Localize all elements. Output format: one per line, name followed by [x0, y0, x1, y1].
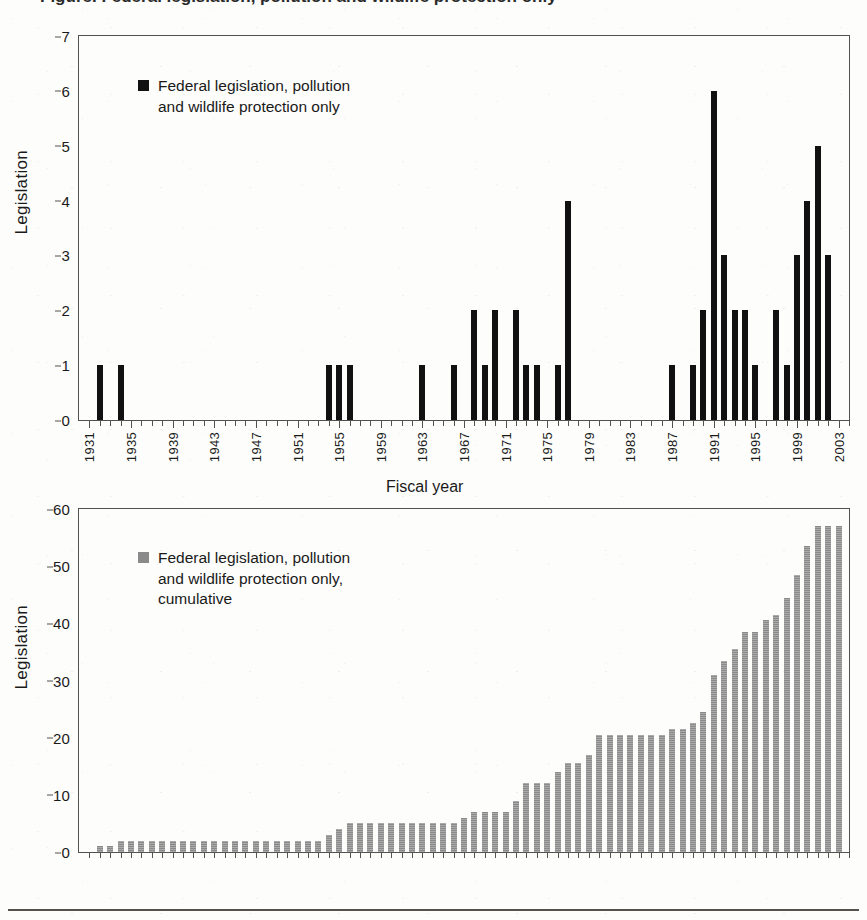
annual-x-tick-mark — [350, 420, 351, 426]
annual-x-tick-label: 1931 — [82, 432, 97, 462]
cumulative-x-tick-mark — [620, 852, 621, 858]
cumulative-x-tick-mark — [235, 852, 236, 858]
cumulative-x-tick-mark — [610, 852, 611, 858]
annual-y-tick-mark — [55, 36, 61, 37]
annual-x-tick-mark — [308, 420, 309, 426]
cumulative-x-tick-mark — [152, 852, 153, 858]
bar — [575, 763, 581, 852]
cumulative-y-tick-label: 0 — [61, 844, 79, 861]
bar — [659, 735, 665, 852]
cumulative-x-tick-mark — [350, 852, 351, 858]
cumulative-x-tick-mark — [807, 852, 808, 858]
cumulative-x-tick-mark — [662, 852, 663, 858]
bar — [419, 823, 425, 852]
annual-x-tick-label: 1943 — [207, 432, 222, 462]
bar — [669, 365, 675, 420]
annual-x-tick-mark — [193, 420, 194, 426]
bar — [451, 823, 457, 852]
annual-x-tick-label: 2003 — [832, 432, 847, 462]
annual-legend-label: Federal legislation, pollution and wildl… — [158, 76, 350, 117]
cumulative-x-tick-mark — [506, 852, 507, 858]
annual-x-tick-label: 1955 — [332, 432, 347, 462]
bar — [804, 546, 810, 852]
annual-x-tick-mark — [568, 420, 569, 426]
annual-x-tick-mark — [266, 420, 267, 426]
bar — [242, 841, 248, 852]
bar — [326, 835, 332, 852]
cumulative-x-tick-mark — [339, 852, 340, 858]
annual-x-tick-mark — [287, 420, 288, 426]
bar — [263, 841, 269, 852]
annual-x-tick-label: 1959 — [374, 432, 389, 462]
cumulative-x-tick-mark — [298, 852, 299, 858]
bar — [804, 201, 810, 420]
annual-x-tick-label: 1983 — [623, 432, 638, 462]
bar — [773, 615, 779, 852]
cumulative-x-tick-mark — [672, 852, 673, 858]
cumulative-x-tick-mark — [755, 852, 756, 858]
cumulative-x-tick-mark — [308, 852, 309, 858]
annual-x-tick-label: 1947 — [249, 432, 264, 462]
bar — [711, 675, 717, 852]
annual-x-tick-mark — [391, 420, 392, 426]
bar — [648, 735, 654, 852]
bar — [763, 620, 769, 852]
annual-x-tick-mark — [558, 420, 559, 426]
annual-y-tick-mark — [55, 146, 61, 147]
bar — [523, 783, 529, 852]
annual-x-tick-mark — [828, 420, 829, 426]
cumulative-legend: Federal legislation, pollution and wildl… — [138, 548, 448, 610]
cumulative-x-tick-mark — [131, 852, 132, 858]
cumulative-x-tick-mark — [651, 852, 652, 858]
annual-x-tick-mark — [183, 420, 184, 426]
annual-x-tick-mark — [724, 420, 725, 426]
cumulative-x-tick-mark — [683, 852, 684, 858]
annual-y-tick-mark — [55, 91, 61, 92]
annual-y-tick-mark — [55, 201, 61, 202]
cumulative-y-tick-mark — [47, 795, 53, 796]
bar — [784, 365, 790, 420]
bar — [211, 841, 217, 852]
bar — [700, 310, 706, 420]
annual-legend-swatch — [138, 80, 149, 91]
cumulative-x-tick-mark — [318, 852, 319, 858]
cumulative-x-tick-mark — [495, 852, 496, 858]
annual-y-tick-label: 5 — [61, 137, 79, 154]
bar — [752, 365, 758, 420]
bar — [492, 310, 498, 420]
annual-x-tick-mark — [849, 420, 850, 426]
annual-x-tick-mark — [839, 420, 840, 428]
annual-y-tick-label: 7 — [61, 28, 79, 45]
cumulative-x-tick-mark — [516, 852, 517, 858]
bar — [825, 255, 831, 420]
annual-x-tick-mark — [526, 420, 527, 426]
annual-x-tick-mark — [651, 420, 652, 426]
cumulative-x-tick-mark — [568, 852, 569, 858]
cumulative-legend-label: Federal legislation, pollution and wildl… — [158, 548, 350, 610]
bar — [128, 841, 134, 852]
bar — [815, 146, 821, 420]
bar — [201, 841, 207, 852]
annual-x-tick-mark — [745, 420, 746, 426]
bar — [815, 526, 821, 852]
annual-x-tick-mark — [277, 420, 278, 426]
cumulative-x-tick-mark — [839, 852, 840, 858]
bar — [253, 841, 259, 852]
annual-x-tick-label: 1991 — [707, 432, 722, 462]
annual-y-tick-label: 2 — [61, 302, 79, 319]
bar — [638, 735, 644, 852]
bar — [565, 763, 571, 852]
annual-x-tick-mark — [370, 420, 371, 426]
bar — [357, 823, 363, 852]
annual-y-tick-label: 0 — [61, 412, 79, 429]
cumulative-x-tick-mark — [797, 852, 798, 858]
annual-x-tick-label: 1963 — [415, 432, 430, 462]
cumulative-y-tick-mark — [47, 509, 53, 510]
bar — [669, 729, 675, 852]
cumulative-y-axis-title: Legislation — [12, 605, 32, 690]
cumulative-x-tick-mark — [464, 852, 465, 858]
bar — [347, 823, 353, 852]
annual-x-tick-mark — [662, 420, 663, 426]
cumulative-x-tick-mark — [787, 852, 788, 858]
annual-y-tick-mark — [55, 310, 61, 311]
